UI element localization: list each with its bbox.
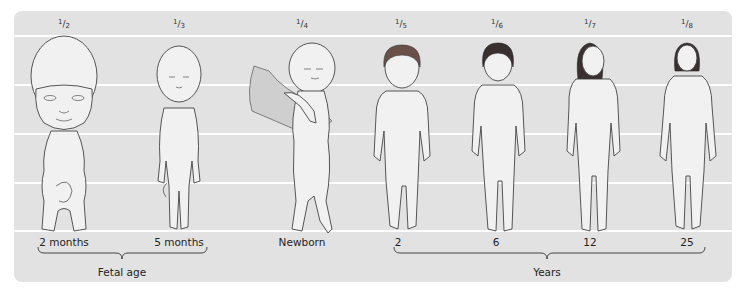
age-label: Newborn [262,236,342,248]
years-brace [394,247,705,259]
fetus-2-months-figure [31,36,97,231]
teen-12-years-figure [567,43,620,231]
fetus-5-months-figure [157,46,201,229]
adult-25-years-figure [660,43,716,229]
age-label: 2 months [24,236,104,248]
head-ratio-label: 1/5 [386,18,416,30]
head-ratio-label: 1/6 [482,18,512,30]
age-label: 25 [647,236,727,248]
head-ratio-label: 1/2 [49,18,79,30]
years-group-label: Years [497,266,597,278]
head-ratio-label: 1/4 [287,18,317,30]
head-ratio-label: 1/8 [672,18,702,30]
head-ratio-label: 1/7 [575,18,605,30]
child-6-years-figure [472,43,525,231]
age-label: 6 [456,236,536,248]
age-label: 5 months [139,236,219,248]
fetal-age-group-label: Fetal age [72,266,172,278]
child-2-years-figure [374,45,430,229]
fetal-age-brace [38,247,207,259]
newborn-figure [249,43,335,233]
age-label: 12 [550,236,630,248]
age-label: 2 [358,236,438,248]
diagram-panel: .body { fill:#f1f1f1; stroke:#444; strok… [14,11,732,282]
head-ratio-label: 1/3 [164,18,194,30]
